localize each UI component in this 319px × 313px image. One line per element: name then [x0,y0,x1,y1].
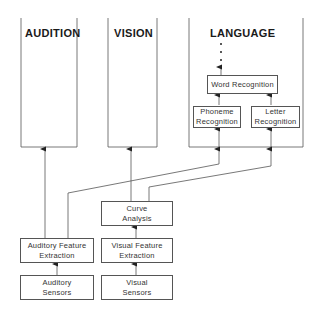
auditory-sensors-label-line1: Auditory [42,278,71,288]
letter-recognition-box: LetterRecognition [251,106,300,128]
phoneme-label-line2: Recognition [196,117,238,127]
phoneme-label-line1: Phoneme [196,107,238,117]
visual-sensors-label-line2: Sensors [123,288,152,298]
auditory-sensors-label-line2: Sensors [42,288,71,298]
visual-sensors-label-line1: Visual [123,278,152,288]
ellipsis-dot [220,59,222,61]
auditory-feature-label-line2: Extraction [28,251,87,261]
connection-lines [0,0,319,313]
curve-label-line1: Curve [122,204,152,214]
ellipsis-dot [220,51,222,53]
curve-analysis-box: CurveAnalysis [101,201,173,226]
vision-title: VISION [114,27,153,39]
auditory-feature-extraction-box: Auditory FeatureExtraction [20,238,94,263]
ellipsis-dot [220,43,222,45]
visual-feature-extraction-box: Visual FeatureExtraction [101,238,173,263]
auditory-feature-label-line1: Auditory Feature [28,241,87,251]
language-title: LANGUAGE [210,27,275,39]
word-recognition-box: Word Recognition [207,75,278,94]
curve-label-line2: Analysis [122,214,152,224]
phoneme-recognition-box: PhonemeRecognition [193,106,241,128]
visual-sensors-box: VisualSensors [101,275,173,300]
letter-label-line1: Letter [255,107,297,117]
visual-feature-label-line1: Visual Feature [111,241,162,251]
visual-feature-label-line2: Extraction [111,251,162,261]
word-recognition-label: Word Recognition [211,80,274,90]
audition-title: AUDITION [25,27,81,39]
letter-label-line2: Recognition [255,117,297,127]
auditory-sensors-box: AuditorySensors [20,275,94,300]
